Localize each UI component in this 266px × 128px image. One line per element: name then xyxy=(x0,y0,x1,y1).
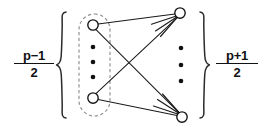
edge-L1-R2 xyxy=(96,30,179,113)
stub-group-top-right xyxy=(152,16,177,36)
right-fraction-numerator: p+1 xyxy=(216,49,258,63)
node-left-top xyxy=(88,20,98,30)
right-ellipsis-dots xyxy=(179,46,184,84)
right-fraction-denominator: 2 xyxy=(216,65,258,79)
left-fraction-numerator: p−1 xyxy=(14,49,54,63)
bipartite-graph-figure: p−1 2 p+1 2 xyxy=(0,0,266,128)
left-ellipsis-dots xyxy=(91,45,96,80)
left-fraction-denominator: 2 xyxy=(14,65,54,79)
left-brace xyxy=(57,12,66,118)
node-left-bottom xyxy=(88,93,98,103)
left-ellipsis-dot-1 xyxy=(91,45,96,50)
left-fraction-bar xyxy=(14,63,54,64)
left-ellipsis-dot-3 xyxy=(91,75,96,80)
right-brace xyxy=(200,12,209,118)
node-right-bottom xyxy=(177,112,187,122)
right-ellipsis-dot-3 xyxy=(179,79,184,84)
edge-L2-R2 xyxy=(98,100,177,116)
left-ellipsis-dot-2 xyxy=(91,60,96,65)
right-fraction-bar xyxy=(216,63,258,64)
node-right-top xyxy=(175,8,185,18)
left-part-size-label: p−1 2 xyxy=(14,49,54,79)
right-ellipsis-dot-1 xyxy=(179,46,184,51)
edge-L2-R1 xyxy=(96,17,177,93)
right-ellipsis-dot-2 xyxy=(179,63,184,68)
right-part-size-label: p+1 2 xyxy=(216,49,258,79)
edge-L1-R1 xyxy=(98,14,175,24)
